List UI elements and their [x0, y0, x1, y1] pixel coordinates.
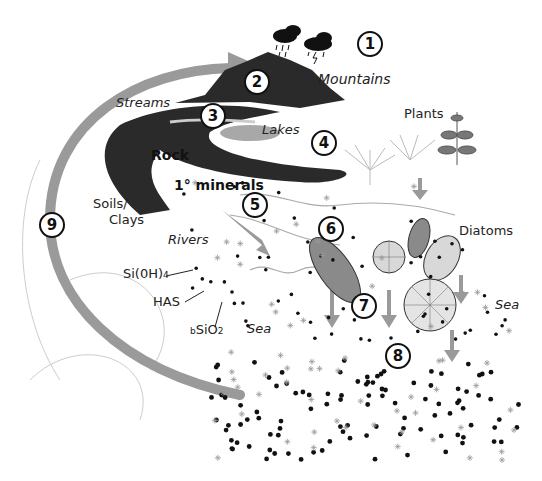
soils-label: Soils/ [93, 197, 128, 210]
clays-label: Clays [109, 213, 144, 226]
sea-label-left: Sea [247, 322, 271, 335]
step-5-marker: 5 [242, 192, 268, 218]
diatoms-label: Diatoms [459, 224, 513, 237]
step-8-marker: 8 [385, 343, 411, 369]
step-3-marker: 3 [200, 103, 226, 129]
has-label: HAS [153, 295, 180, 308]
step-6-marker: 6 [318, 216, 344, 242]
step-4-marker: 4 [311, 130, 337, 156]
silicon-cycle-diagram: 1 2 3 4 5 6 7 8 9 Mountains Streams Lake… [0, 0, 542, 481]
step-9-marker: 9 [39, 212, 65, 238]
rock-band [105, 106, 347, 215]
aquatic-plants [345, 135, 435, 185]
sea-label-right: Sea [495, 298, 519, 311]
mountains-label: Mountains [318, 72, 391, 86]
silicic-acid-label: Si(0H)4 [123, 267, 169, 280]
storm-clouds-icon [273, 25, 332, 51]
primary-minerals-label: 1° minerals [174, 178, 264, 192]
plants-label: Plants [404, 107, 444, 120]
streams-label: Streams [116, 96, 170, 109]
step-7-marker: 7 [351, 293, 377, 319]
rivers-label: Rivers [168, 233, 208, 246]
diagram-artwork [0, 0, 542, 481]
step-2-marker: 2 [244, 69, 270, 95]
rock-label: Rock [151, 148, 189, 162]
step-1-marker: 1 [357, 31, 383, 57]
biogenic-silica-label: bSiO2 [190, 323, 224, 336]
lakes-label: Lakes [262, 123, 300, 136]
